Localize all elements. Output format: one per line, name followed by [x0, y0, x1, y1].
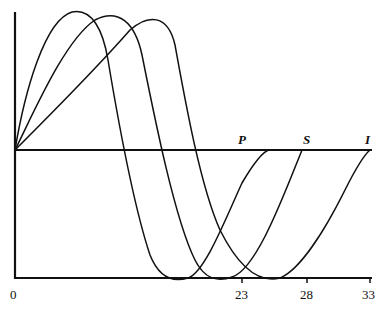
curve-label-p: P [238, 132, 246, 148]
curve-s [15, 16, 302, 280]
curve-label-i: I [365, 132, 370, 148]
origin-label: 0 [10, 287, 17, 303]
tick-label-33: 33 [362, 287, 375, 303]
tick-label-28: 28 [300, 287, 313, 303]
tick-label-23: 23 [235, 287, 248, 303]
curve-label-s: S [303, 132, 310, 148]
biorhythm-chart [0, 0, 391, 316]
